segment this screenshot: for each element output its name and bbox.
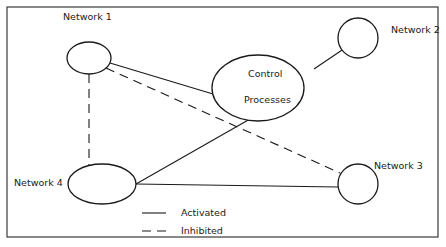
node-network4 bbox=[68, 164, 136, 204]
network-diagram: Network 1 Network 2 Network 3 Network 4 … bbox=[0, 0, 446, 247]
label-network4: Network 4 bbox=[14, 177, 63, 188]
label-network1: Network 1 bbox=[63, 11, 112, 22]
node-network3 bbox=[338, 164, 378, 204]
node-control-processes bbox=[212, 55, 304, 121]
label-network2: Network 2 bbox=[391, 24, 440, 35]
label-processes: Processes bbox=[244, 94, 291, 105]
label-network3: Network 3 bbox=[374, 160, 423, 171]
legend-inhibited-label: Inhibited bbox=[181, 225, 223, 236]
label-control: Control bbox=[248, 68, 282, 79]
node-network1 bbox=[67, 42, 111, 74]
legend-activated-label: Activated bbox=[181, 207, 226, 218]
node-network2 bbox=[338, 18, 378, 58]
